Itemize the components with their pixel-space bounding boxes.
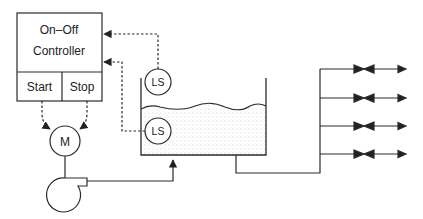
flow-arrow-icon [398, 151, 406, 158]
branch-3 [320, 122, 406, 130]
valve-icon [354, 65, 374, 73]
lower-level-switch: LS [145, 118, 171, 144]
branch-1 [320, 65, 406, 73]
stop-button[interactable]: Stop [70, 80, 95, 94]
flow-arrow-icon [398, 66, 406, 73]
level-control-diagram: On–Off Controller Start Stop M LS LS [0, 0, 423, 219]
valve-icon [354, 94, 374, 102]
start-button[interactable]: Start [27, 80, 53, 94]
upper-ls-label: LS [152, 76, 165, 88]
inlet-pipe [87, 160, 173, 181]
valve-icon [354, 122, 374, 130]
controller-title-line2: Controller [33, 44, 85, 58]
lower-ls-label: LS [152, 125, 165, 137]
valve-icon [354, 150, 374, 158]
centrifugal-pump [47, 178, 87, 212]
branch-2 [320, 94, 406, 102]
flow-arrow-icon [398, 95, 406, 102]
branch-4 [320, 150, 406, 158]
motor: M [50, 126, 80, 156]
motor-label: M [60, 135, 70, 149]
controller-title-line1: On–Off [40, 23, 79, 37]
distribution-branches [320, 65, 406, 158]
flow-arrow-icon [398, 123, 406, 130]
upper-level-switch: LS [145, 69, 171, 95]
